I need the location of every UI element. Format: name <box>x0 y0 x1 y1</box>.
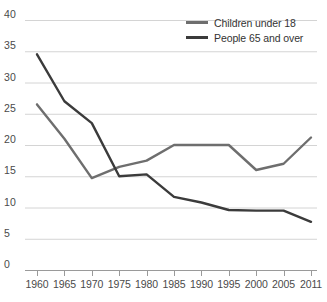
data-series-line-0 <box>37 104 311 178</box>
y-axis-tick-label: 40 <box>4 8 16 20</box>
y-axis-tick-label: 5 <box>4 227 10 239</box>
legend-swatch-icon <box>186 36 208 39</box>
y-axis-tick-label: 30 <box>4 71 16 83</box>
legend-swatch-icon <box>186 21 208 24</box>
legend-item-label: Children under 18 <box>214 17 296 29</box>
legend-item-label: People 65 and over <box>214 32 303 44</box>
data-series-line-1 <box>37 54 311 222</box>
y-axis-tick-label: 35 <box>4 39 16 51</box>
y-axis-tick-label: 25 <box>4 102 16 114</box>
legend-item-seniors[interactable]: People 65 and over <box>186 31 316 44</box>
y-axis-tick-label: 15 <box>4 164 16 176</box>
chart-legend: Children under 18 People 65 and over <box>186 16 316 46</box>
y-axis-tick-label: 0 <box>4 258 10 270</box>
x-axis-tick-label: 2011 <box>291 278 327 290</box>
legend-item-children[interactable]: Children under 18 <box>186 16 316 29</box>
y-axis-tick-label: 10 <box>4 196 16 208</box>
y-axis-tick-label: 20 <box>4 133 16 145</box>
